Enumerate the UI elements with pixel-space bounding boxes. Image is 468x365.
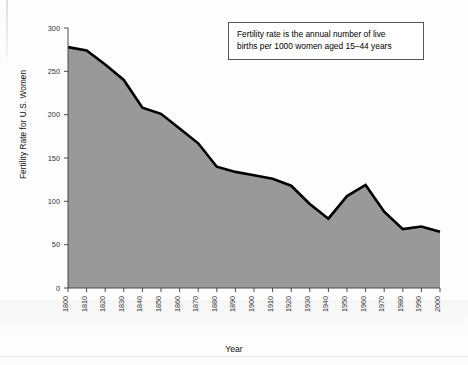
plot-area — [68, 47, 440, 288]
y-axis-ticks: 050100150200250300 — [48, 24, 68, 293]
x-tick-label: 1880 — [210, 296, 219, 312]
x-tick-label: 1950 — [340, 296, 349, 312]
x-tick-label: 1960 — [359, 296, 368, 312]
area-fill-series — [68, 47, 440, 288]
x-tick-label: 1870 — [191, 296, 200, 312]
annotation-box: Fertility rate is the annual number of l… — [228, 22, 424, 60]
y-tick-label: 0 — [56, 284, 60, 293]
y-tick-label: 200 — [48, 110, 60, 119]
scanned-page: 050100150200250300 180018101820183018401… — [0, 0, 468, 365]
x-tick-label: 1940 — [321, 296, 330, 312]
x-axis-title: Year — [0, 344, 468, 354]
x-tick-label: 2000 — [433, 296, 442, 312]
x-tick-label: 1910 — [266, 296, 275, 312]
x-tick-label: 1990 — [414, 296, 423, 312]
y-tick-label: 300 — [48, 24, 60, 33]
y-axis-title: Fertility Rate for U.S. Women — [19, 40, 28, 210]
y-tick-label: 50 — [52, 240, 60, 249]
fertility-rate-chart: 050100150200250300 180018101820183018401… — [0, 0, 468, 365]
x-tick-label: 1900 — [247, 296, 256, 312]
x-tick-label: 1820 — [98, 296, 107, 312]
x-tick-label: 1980 — [396, 296, 405, 312]
y-tick-label: 100 — [48, 197, 60, 206]
annotation-line-2: births per 1000 women aged 15–44 years — [237, 41, 415, 53]
x-tick-label: 1970 — [377, 296, 386, 312]
x-tick-label: 1810 — [80, 296, 89, 312]
y-tick-label: 250 — [48, 67, 60, 76]
x-tick-label: 1830 — [117, 296, 126, 312]
x-axis: 1800181018201830184018501860187018801890… — [61, 288, 442, 312]
x-tick-label: 1920 — [284, 296, 293, 312]
x-axis-ticks: 1800181018201830184018501860187018801890… — [61, 288, 442, 312]
x-tick-label: 1930 — [303, 296, 312, 312]
x-tick-label: 1860 — [173, 296, 182, 312]
x-tick-label: 1800 — [61, 296, 70, 312]
y-axis: 050100150200250300 — [48, 24, 68, 293]
x-tick-label: 1840 — [135, 296, 144, 312]
y-tick-label: 150 — [48, 154, 60, 163]
x-tick-label: 1850 — [154, 296, 163, 312]
annotation-line-1: Fertility rate is the annual number of l… — [237, 29, 415, 41]
x-tick-label: 1890 — [228, 296, 237, 312]
